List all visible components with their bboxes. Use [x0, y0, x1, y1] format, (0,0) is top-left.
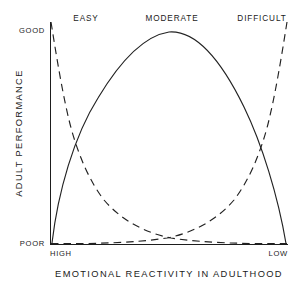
- series-label-easy: EASY: [73, 14, 98, 23]
- chart-figure: EASY MODERATE DIFFICULT GOOD POOR HIGH L…: [0, 0, 304, 292]
- curves-group: [51, 22, 287, 244]
- x-axis-title: EMOTIONAL REACTIVITY IN ADULTHOOD: [55, 269, 283, 279]
- curve-easy: [51, 22, 287, 244]
- y-tick-label-good: GOOD: [19, 26, 45, 35]
- chart-canvas: EASY MODERATE DIFFICULT GOOD POOR HIGH L…: [0, 0, 304, 292]
- curve-difficult: [51, 22, 287, 244]
- y-tick-label-poor: POOR: [20, 239, 45, 248]
- x-tick-labels-group: HIGH LOW: [50, 249, 288, 258]
- series-label-moderate: MODERATE: [146, 14, 199, 23]
- series-labels-group: EASY MODERATE DIFFICULT: [73, 14, 286, 23]
- axes-group: [50, 22, 288, 245]
- series-label-difficult: DIFFICULT: [237, 14, 286, 23]
- y-axis-title: ADULT PERFORMANCE: [14, 69, 24, 196]
- x-tick-label-high: HIGH: [50, 249, 72, 258]
- curve-moderate: [52, 32, 286, 244]
- x-tick-label-low: LOW: [269, 249, 289, 258]
